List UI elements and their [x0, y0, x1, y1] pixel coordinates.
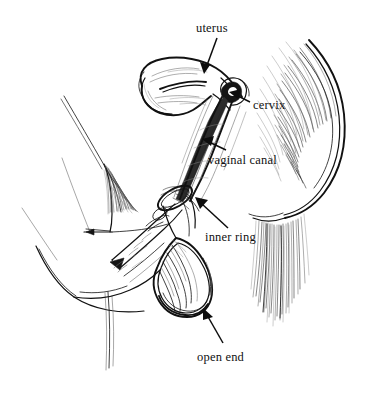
buttock-contour: [249, 40, 345, 326]
illustration-canvas: [0, 0, 372, 394]
condom-open-end: [154, 238, 212, 317]
label-open-end: open end: [197, 351, 244, 364]
arrow-open-end: [203, 308, 223, 343]
label-uterus: uterus: [196, 22, 228, 35]
label-inner-ring: inner ring: [205, 231, 256, 244]
arrow-inner-ring: [195, 197, 228, 228]
vaginal-canal-tube: [174, 96, 246, 203]
label-cervix: cervix: [253, 99, 285, 112]
label-vaginal-canal: vaginal canal: [208, 154, 277, 167]
arrow-uterus: [200, 38, 217, 74]
anatomical-figure: uterus cervix vaginal canal inner ring o…: [0, 0, 372, 394]
abdomen-contour: [22, 96, 168, 370]
